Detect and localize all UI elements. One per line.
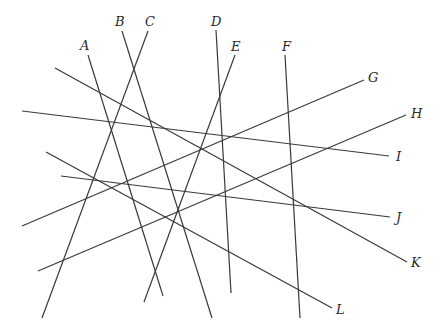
line-diagram: ABCDEFGHIJKL <box>0 0 443 333</box>
line-segment-l <box>46 152 332 308</box>
line-segment-e <box>144 55 235 302</box>
line-label-c: C <box>145 14 155 29</box>
line-label-e: E <box>230 39 241 54</box>
line-label-j: J <box>393 210 402 225</box>
line-l: L <box>46 152 345 317</box>
line-label-a: A <box>79 38 89 53</box>
line-e: E <box>144 39 241 302</box>
line-segment-k <box>55 68 407 262</box>
line-segment-c <box>42 31 148 318</box>
line-label-i: I <box>395 149 402 164</box>
line-segment-b <box>122 31 212 318</box>
line-k: K <box>55 68 422 270</box>
line-a: A <box>79 38 163 296</box>
line-label-g: G <box>368 70 378 85</box>
line-f: F <box>281 39 300 318</box>
line-label-h: H <box>410 106 423 121</box>
line-label-d: D <box>210 14 222 29</box>
line-label-b: B <box>114 14 125 29</box>
line-c: C <box>42 14 155 318</box>
line-segment-j <box>61 176 390 217</box>
line-j: J <box>61 176 402 225</box>
line-segment-g <box>22 80 364 226</box>
line-label-f: F <box>281 39 292 54</box>
line-label-l: L <box>335 302 345 317</box>
line-h: H <box>38 106 423 271</box>
line-segment-f <box>285 55 300 318</box>
line-segment-i <box>22 111 389 156</box>
line-label-k: K <box>410 255 422 270</box>
diagram-svg: ABCDEFGHIJKL <box>0 0 443 333</box>
